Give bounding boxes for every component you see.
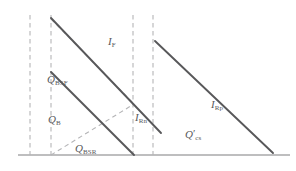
label-q-bsf: QBSF — [47, 70, 68, 86]
diagram-canvas: IF QBSF QB QBSR IRn IRp Q′cs — [0, 0, 296, 171]
label-i-rn: IRn — [135, 108, 147, 124]
label-i-rp-subscript: Rp — [215, 104, 223, 112]
label-q-cs-subscript: cs — [195, 134, 201, 142]
label-q-b-symbol: Q — [48, 113, 56, 125]
label-q-bsr-subscript: BSR — [83, 148, 97, 156]
label-q-cs-symbol: Q — [185, 128, 193, 140]
label-i-rp: IRp — [211, 95, 223, 111]
label-q-bsf-subscript: BSF — [55, 79, 68, 87]
label-q-bsr-symbol: Q — [75, 142, 83, 154]
diagram-svg — [0, 0, 296, 171]
label-q-b: QB — [48, 110, 61, 126]
label-q-bsr: QBSR — [75, 139, 96, 155]
label-q-bsf-symbol: Q — [47, 73, 55, 85]
label-q-b-subscript: B — [56, 119, 61, 127]
label-q-cs: Q′cs — [185, 125, 201, 141]
label-i-f: IF — [108, 32, 116, 48]
label-i-f-subscript: F — [112, 41, 116, 49]
label-i-rn-subscript: Rn — [139, 117, 147, 125]
